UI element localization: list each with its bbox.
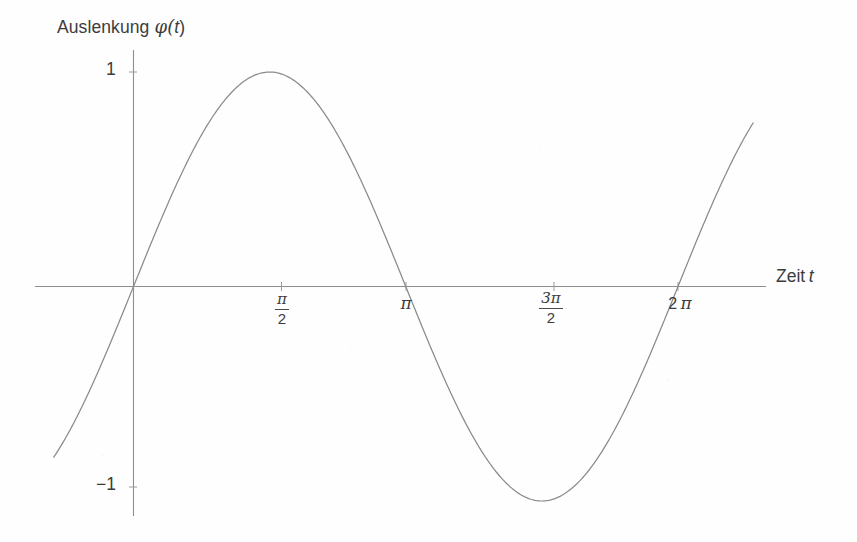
fraction-numerator: 3π — [539, 290, 562, 309]
pi-symbol: π — [680, 293, 691, 313]
x-axis-title-variable: t — [809, 266, 814, 286]
pi-symbol: π — [400, 293, 411, 313]
y-tick-label-1: 1 — [106, 61, 116, 79]
x-tick-label-three-half-pi: 3π 2 — [524, 290, 578, 326]
y-axis-title-phi: φ( — [154, 16, 174, 37]
y-axis-title-text: Auslenkung — [57, 17, 149, 37]
figure-canvas: Auslenkung φ(t) Zeit t 1 −1 π 2 π 3π 2 2… — [0, 0, 857, 542]
y-axis-title-paren: ) — [179, 17, 185, 37]
x-axis-title-text: Zeit — [776, 266, 805, 286]
fraction-denominator: 2 — [275, 310, 289, 327]
x-tick-label-pi: π — [383, 293, 429, 313]
plot-area — [0, 0, 857, 542]
numerator-text: 3π — [541, 289, 560, 307]
x-axis-title: Zeit t — [776, 268, 814, 286]
fraction-half-pi: π 2 — [275, 292, 289, 327]
coefficient-text: 2 — [668, 295, 677, 312]
fraction-denominator: 2 — [539, 309, 562, 326]
x-tick-label-half-pi: π 2 — [258, 292, 306, 327]
x-tick-label-two-pi: 2 π — [653, 293, 707, 313]
fraction-numerator: π — [275, 292, 289, 310]
y-axis-title: Auslenkung φ(t) — [57, 18, 185, 37]
y-tick-label-minus1: −1 — [96, 476, 116, 494]
fraction-three-half-pi: 3π 2 — [539, 290, 562, 326]
